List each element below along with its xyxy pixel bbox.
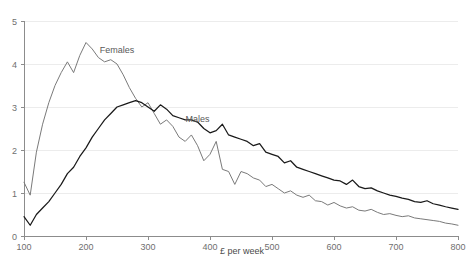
series-line-males xyxy=(24,101,458,226)
x-tick-label: 800 xyxy=(450,242,465,252)
y-tick-label: 0 xyxy=(12,232,17,242)
gridlines-group xyxy=(24,21,458,193)
y-tick-label: 5 xyxy=(12,17,17,27)
y-tick-labels-group: 012345 xyxy=(12,17,17,242)
y-tick-label: 4 xyxy=(12,60,17,70)
x-tick-label: 700 xyxy=(388,242,403,252)
y-tick-label: 2 xyxy=(12,146,17,156)
x-tick-label: 600 xyxy=(326,242,341,252)
x-tick-label: 400 xyxy=(202,242,217,252)
axes-group xyxy=(24,21,458,236)
data-series-group xyxy=(24,43,458,226)
series-label-males: Males xyxy=(186,114,211,124)
x-tick-label: 100 xyxy=(16,242,31,252)
x-tick-label: 500 xyxy=(264,242,279,252)
series-line-females xyxy=(24,43,458,226)
series-label-females: Females xyxy=(100,45,135,55)
x-tick-label: 200 xyxy=(78,242,93,252)
tick-marks-group xyxy=(21,21,458,240)
line-chart: 100200300400500600700800 012345 FemalesM… xyxy=(0,0,468,260)
y-tick-label: 1 xyxy=(12,189,17,199)
chart-container: 100200300400500600700800 012345 FemalesM… xyxy=(0,0,468,260)
y-tick-label: 3 xyxy=(12,103,17,113)
x-tick-label: 300 xyxy=(140,242,155,252)
series-annotations-group: FemalesMales xyxy=(100,45,210,124)
x-axis-title: £ per week xyxy=(220,246,265,256)
